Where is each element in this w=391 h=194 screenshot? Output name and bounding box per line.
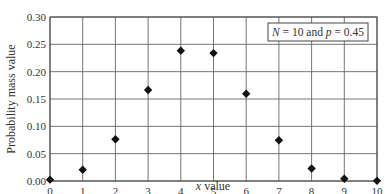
diamond-marker [373,177,381,185]
diamond-marker [46,175,54,183]
y-tick-label: 0.15 [27,93,47,105]
diamond-marker [111,135,119,143]
x-tick-label: 3 [145,185,151,194]
y-tick-label: 0.10 [27,120,47,132]
svg-text:N = 10 and p = 0.45: N = 10 and p = 0.45 [271,26,364,39]
x-tick-label: 7 [276,185,282,194]
y-tick-label: 0.00 [27,175,47,187]
x-tick-label: 10 [372,185,384,194]
y-tick-label: 0.05 [27,148,47,160]
diamond-marker [275,136,283,144]
diamond-marker [177,46,185,54]
y-tick-label: 0.20 [27,66,47,78]
diamond-marker [79,165,87,173]
grid-lines [50,17,377,181]
y-axis-label: Probability mass value [4,44,18,153]
x-tick-label: 8 [309,185,315,194]
diamond-marker [340,175,348,183]
x-tick-label: 2 [113,185,119,194]
x-tick-label: 9 [342,185,348,194]
y-axis-ticks: 0.000.050.100.150.200.250.30 [27,11,47,187]
x-tick-label: 1 [80,185,86,194]
diamond-marker [307,164,315,172]
x-tick-label: 6 [243,185,249,194]
x-tick-label: 4 [178,185,184,194]
diamond-marker [209,49,217,57]
x-axis-label: x value [195,179,230,193]
binomial-pmf-chart: 0.000.050.100.150.200.250.30 01234567891… [0,0,391,194]
y-tick-label: 0.25 [27,38,47,50]
legend-annotation: N = 10 and p = 0.45 [268,23,368,41]
diamond-marker [144,86,152,94]
x-tick-label: 0 [47,185,53,194]
diamond-marker [242,90,250,98]
y-tick-label: 0.30 [27,11,47,23]
